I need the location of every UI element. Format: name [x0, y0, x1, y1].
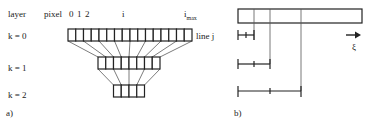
signal-line-rect	[238, 9, 362, 23]
pixel-cell	[99, 29, 107, 41]
scale-bracket-k0	[238, 30, 254, 40]
scale-bracket-k2	[238, 86, 301, 97]
pixel-cell	[114, 57, 122, 69]
pixel-cell	[145, 57, 153, 69]
pixel-cell	[98, 57, 106, 69]
pixel-index-i: i	[122, 9, 125, 19]
layer-label-k2: k = 2	[8, 90, 27, 100]
pixel-cell	[169, 29, 177, 41]
pixel-cell	[130, 29, 138, 41]
pixel-cell	[115, 29, 123, 41]
pixel-cell	[152, 57, 160, 69]
pixel-cell	[138, 29, 146, 41]
layer-k0-cells	[68, 29, 192, 41]
pixel-cell	[121, 85, 129, 97]
pixel-cell	[153, 29, 161, 41]
line-j-label: line j	[196, 31, 214, 41]
pixel-cell	[137, 57, 145, 69]
connections-k0-k1	[68, 41, 192, 57]
panel-a-label: a)	[6, 108, 13, 118]
pyramid-diagram: layer pixel 0 1 2 i imax k = 0 k = 1 k =…	[0, 0, 375, 122]
pixel-cell	[146, 29, 154, 41]
pixel-cell	[184, 29, 192, 41]
pixel-cell	[107, 29, 115, 41]
pixel-cell	[121, 57, 129, 69]
panel-b-label: b)	[234, 108, 242, 118]
pixel-index-0: 0	[69, 9, 74, 19]
connections-k1-k2	[98, 69, 160, 85]
layer-label-k1: k = 1	[8, 63, 27, 73]
layer-label-k0: k = 0	[8, 31, 27, 41]
pixel-cell	[129, 57, 137, 69]
xi-symbol: ξ	[352, 42, 356, 52]
layer-k2-cells	[114, 85, 145, 97]
xi-axis-arrow-icon	[346, 32, 361, 39]
pixel-header: pixel	[44, 9, 62, 19]
pixel-cell	[84, 29, 92, 41]
pixel-index-imax: imax	[184, 9, 197, 21]
pixel-cell	[76, 29, 84, 41]
pixel-cell	[129, 85, 137, 97]
pixel-index-1: 1	[77, 9, 82, 19]
pixel-cell	[161, 29, 169, 41]
pixel-cell	[177, 29, 185, 41]
pixel-cell	[91, 29, 99, 41]
pixel-index-2: 2	[85, 9, 90, 19]
layer-header: layer	[8, 9, 26, 19]
pixel-cell	[122, 29, 130, 41]
pixel-cell	[137, 85, 145, 97]
pixel-cell	[114, 85, 122, 97]
pixel-cell	[106, 57, 114, 69]
layer-k1-cells	[98, 57, 160, 69]
pixel-cell	[68, 29, 76, 41]
scale-bracket-k1	[238, 59, 270, 69]
